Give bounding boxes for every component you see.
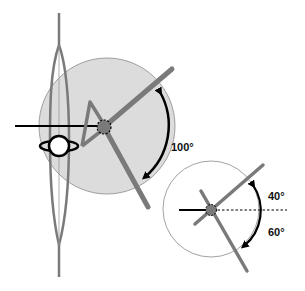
- joint-rotation-diagram: 100° 40° 60°: [0, 0, 305, 291]
- angle-label-40: 40°: [268, 190, 285, 202]
- pivot-joint-main: [97, 120, 111, 134]
- pivot-joint-inset: [206, 205, 217, 216]
- angle-label-100: 100°: [171, 141, 194, 153]
- angle-label-60: 60°: [268, 226, 285, 238]
